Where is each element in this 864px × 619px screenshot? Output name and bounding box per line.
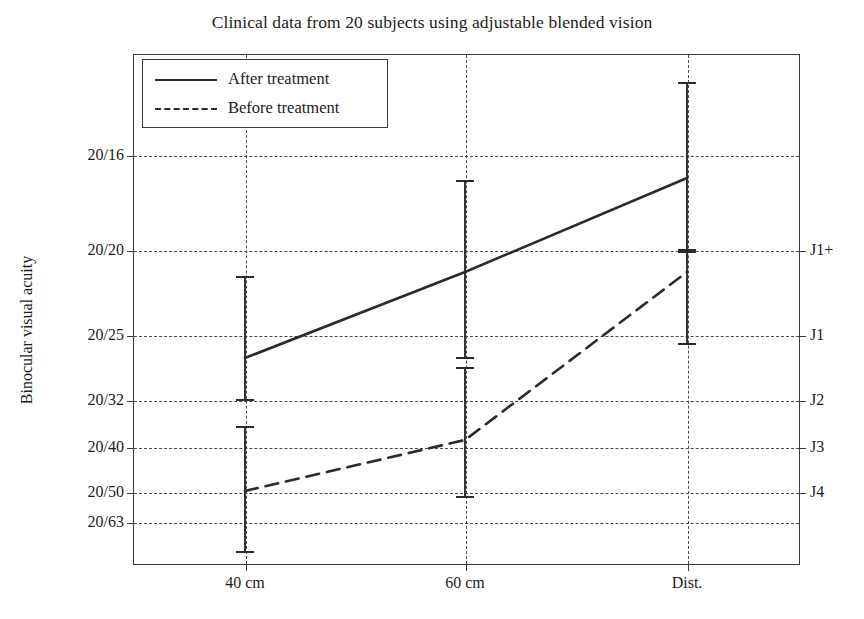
y-axis-tick-label: 20/16 [88, 147, 124, 163]
secondary-y-axis-tick-label: J1 [810, 327, 824, 343]
secondary-y-axis-tick-J2 [799, 401, 806, 402]
x-axis-tick-0 [246, 564, 247, 571]
y-axis-tick-20-20 [127, 251, 134, 252]
secondary-y-axis-tick-label: J2 [810, 392, 824, 408]
legend-label-before: Before treatment [228, 100, 339, 117]
y-axis-tick-20-32 [127, 401, 134, 402]
chart-title: Clinical data from 20 subjects using adj… [0, 12, 864, 33]
x-axis-tick-1 [466, 564, 467, 571]
y-axis-tick-label: 20/50 [88, 484, 124, 500]
secondary-y-axis-tick-label: J3 [810, 439, 824, 455]
gridline-vertical [688, 55, 689, 564]
plot-area [133, 54, 800, 565]
legend-label-after: After treatment [228, 71, 329, 88]
legend-item-before: Before treatment [143, 94, 387, 123]
y-axis-tick-label-group: 20/1620/2020/2520/3220/4020/5020/63 [0, 0, 124, 619]
y-axis-tick-20-63 [127, 523, 134, 524]
y-axis-tick-20-50 [127, 493, 134, 494]
secondary-y-axis-tick-label: J4 [810, 484, 824, 500]
legend-item-after: After treatment [143, 65, 387, 94]
secondary-y-axis-tick-J4 [799, 493, 806, 494]
y-axis-tick-label: 20/32 [88, 392, 124, 408]
y-axis-tick-label: 20/25 [88, 327, 124, 343]
y-axis-tick-20-40 [127, 448, 134, 449]
y-axis-tick-20-16 [127, 156, 134, 157]
secondary-y-axis-tick-J3 [799, 448, 806, 449]
secondary-y-axis-tick-J1+ [799, 251, 806, 252]
y-axis-tick-label: 20/20 [88, 242, 124, 258]
secondary-y-axis-tick-label: J1+ [810, 242, 833, 258]
gridline-vertical [466, 55, 467, 564]
x-axis-tick-label: Dist. [672, 575, 703, 591]
chart-legend: After treatment Before treatment [142, 59, 388, 128]
secondary-y-axis-tick-label-group: J1+J1J2J3J4 [810, 0, 864, 619]
y-axis-tick-label: 20/40 [88, 439, 124, 455]
x-axis-tick-label: 60 cm [445, 575, 485, 591]
x-axis-tick-2 [688, 564, 689, 571]
chart-figure: Clinical data from 20 subjects using adj… [0, 0, 864, 619]
secondary-y-axis-tick-J1 [799, 336, 806, 337]
gridline-vertical [246, 55, 247, 564]
legend-line-dashed-icon [155, 108, 217, 110]
y-axis-tick-label: 20/63 [88, 514, 124, 530]
legend-line-solid-icon [155, 79, 217, 81]
y-axis-tick-20-25 [127, 336, 134, 337]
x-axis-tick-label: 40 cm [225, 575, 265, 591]
